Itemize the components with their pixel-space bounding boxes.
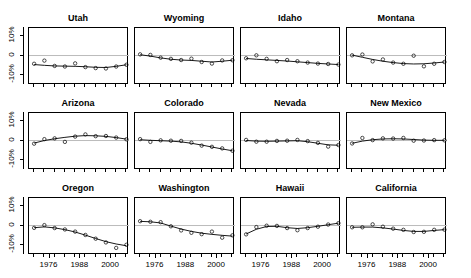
x-tickmark — [351, 84, 352, 87]
x-tickmark — [54, 169, 55, 172]
x-tickmark-major — [367, 254, 368, 258]
x-tickmark — [361, 84, 362, 87]
x-tickmark-major — [185, 254, 186, 258]
x-tickmark — [266, 84, 267, 87]
x-tickmark — [392, 169, 393, 172]
data-point — [244, 138, 247, 141]
data-point — [432, 228, 435, 231]
x-tickmark — [180, 169, 181, 172]
x-tickmark — [170, 169, 171, 172]
x-tick-label: 1976 — [246, 260, 276, 269]
y-tickmark — [20, 140, 24, 141]
data-point — [296, 229, 299, 232]
data-point — [306, 139, 309, 142]
x-tickmark — [54, 254, 55, 257]
x-tickmark — [276, 84, 277, 87]
x-tickmark — [54, 84, 55, 87]
x-tickmark — [307, 169, 308, 172]
x-tickmark — [402, 169, 403, 172]
x-tickmark — [433, 254, 434, 257]
data-point — [381, 137, 384, 140]
x-tickmark — [43, 84, 44, 87]
x-tickmark — [201, 254, 202, 257]
trend-line — [352, 55, 444, 64]
x-tickmark — [245, 254, 246, 257]
x-tickmark — [84, 254, 85, 257]
y-tickmark — [20, 55, 24, 56]
x-tickmark — [413, 169, 414, 172]
x-tickmark — [33, 254, 34, 257]
x-tickmark — [286, 254, 287, 257]
y-tickmark — [20, 159, 24, 160]
x-tickmark — [382, 84, 383, 87]
x-tickmark — [160, 169, 161, 172]
panel-title: New Mexico — [346, 98, 446, 109]
y-tickmark — [20, 205, 24, 206]
multi-panel-chart: Utah10%0-10%WyomingIdahoMontanaArizona10… — [0, 0, 471, 278]
x-tickmark — [413, 254, 414, 257]
x-tick-label: 1988 — [64, 260, 94, 269]
x-tickmark — [255, 254, 256, 257]
data-point — [422, 65, 425, 68]
x-tickmark-major — [79, 254, 80, 258]
x-tickmark-major — [428, 254, 429, 258]
x-tickmark — [372, 254, 373, 257]
x-tickmark — [423, 254, 424, 257]
x-tickmark — [149, 254, 150, 257]
x-tickmark — [201, 84, 202, 87]
y-tick-label: -10% — [7, 229, 16, 259]
x-tickmark — [74, 169, 75, 172]
x-tickmark-major — [261, 254, 262, 258]
x-tickmark — [74, 84, 75, 87]
x-tickmark — [180, 254, 181, 257]
y-tick-label: -10% — [7, 144, 16, 174]
y-tickmark — [20, 74, 24, 75]
x-tickmark-major — [155, 254, 156, 258]
x-tickmark — [255, 169, 256, 172]
x-tickmark — [95, 254, 96, 257]
x-tickmark — [64, 84, 65, 87]
x-tickmark — [64, 169, 65, 172]
x-tickmark — [307, 254, 308, 257]
panel-plot — [347, 198, 447, 255]
data-point — [412, 230, 415, 233]
x-tickmark — [443, 254, 444, 257]
x-tickmark — [372, 84, 373, 87]
x-tickmark — [433, 84, 434, 87]
x-tickmark — [286, 84, 287, 87]
x-tickmark — [139, 84, 140, 87]
x-tickmark — [95, 169, 96, 172]
x-tickmark — [351, 169, 352, 172]
plot-area — [346, 112, 446, 169]
y-tickmark — [20, 225, 24, 226]
x-tickmark — [392, 254, 393, 257]
x-tickmark-major — [397, 254, 398, 258]
x-tickmark — [255, 84, 256, 87]
x-tickmark — [423, 84, 424, 87]
x-tickmark — [361, 254, 362, 257]
x-tick-label: 1976 — [140, 260, 170, 269]
data-point — [361, 136, 364, 139]
x-tickmark — [180, 84, 181, 87]
x-tickmark — [245, 84, 246, 87]
x-tickmark — [433, 169, 434, 172]
x-tick-label: 1976 — [352, 260, 382, 269]
x-tickmark — [201, 169, 202, 172]
data-point — [296, 60, 299, 63]
x-tick-label: 2000 — [413, 260, 443, 269]
plot-area — [346, 27, 446, 84]
data-point — [32, 142, 35, 145]
x-tickmark — [296, 169, 297, 172]
x-tickmark — [382, 254, 383, 257]
x-tickmark — [413, 84, 414, 87]
x-tickmark — [392, 84, 393, 87]
x-tick-label: 1976 — [34, 260, 64, 269]
panel-plot — [347, 28, 447, 85]
x-tickmark — [43, 169, 44, 172]
data-point — [244, 233, 247, 236]
x-tickmark — [443, 84, 444, 87]
x-tickmark — [286, 169, 287, 172]
x-tickmark — [423, 169, 424, 172]
x-tickmark — [149, 169, 150, 172]
x-tickmark — [276, 254, 277, 257]
